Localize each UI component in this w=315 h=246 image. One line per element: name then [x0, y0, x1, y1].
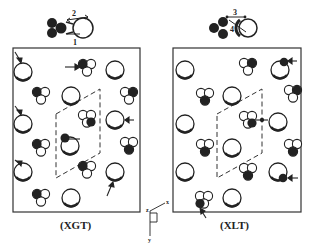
xgt-title: (XGT) [60, 219, 91, 231]
molecule-xgt-reference: 2 1 [47, 9, 93, 47]
distance-label-4: 4 [230, 25, 234, 34]
axes-indicator [150, 203, 165, 236]
axis-x-label: x [166, 199, 169, 205]
distance-label-3: 3 [233, 8, 237, 17]
xlt-arrows [200, 58, 298, 218]
distance-label-2: 2 [72, 9, 76, 18]
xgt-molecules [14, 59, 138, 207]
xlt-title: (XLT) [220, 219, 249, 231]
molecule-xlt-reference: 3 4 [209, 8, 257, 39]
distance-label-1: 1 [73, 38, 77, 47]
axis-y-label: y [148, 237, 151, 243]
xlt-molecules [176, 58, 302, 208]
crystal-packing-diagram: 2 1 3 4 [0, 0, 315, 246]
axis-z-label: z [146, 207, 149, 213]
